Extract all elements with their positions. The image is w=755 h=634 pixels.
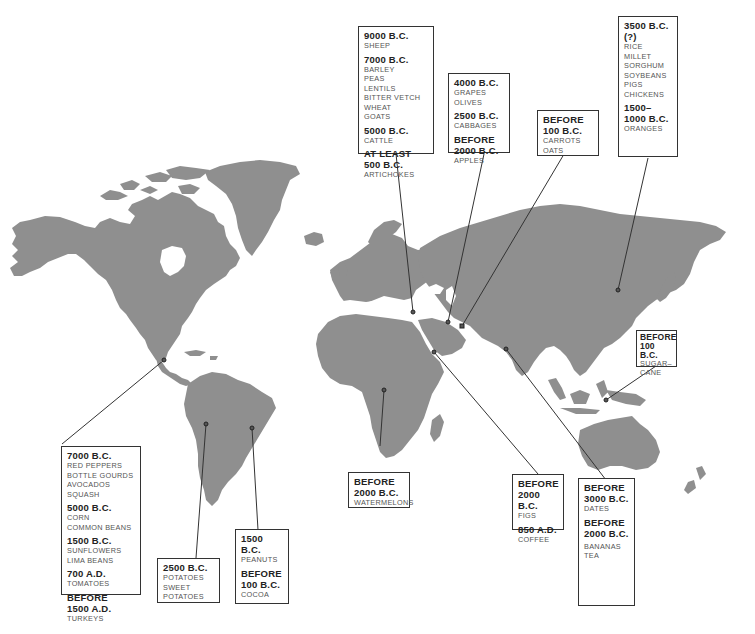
callout-mesoamerica: 7000 B.C. RED PEPPERS BOTTLE GOURDS AVOC…	[61, 446, 141, 595]
crop-label: ORANGES	[624, 124, 673, 134]
callout-china: 3500 B.C. (?) RICE MILLET SORGHUM SOYBEA…	[618, 16, 678, 157]
crop-label: PIGS	[624, 80, 673, 90]
date-label: 1500 B.C.	[241, 533, 284, 555]
crop-label: AVOCADOS	[67, 480, 136, 490]
callout-africa: BEFORE2000 B.C.WATERMELONS	[348, 472, 410, 508]
callout-caucasus: 4000 B.C. GRAPES OLIVES 2500 B.C.CABBAGE…	[448, 73, 510, 153]
location-dot	[250, 426, 254, 430]
date-label: 5000 B.C.	[364, 125, 429, 136]
callout-near-east: 9000 B.C.SHEEP 7000 B.C. BARLEY PEAS LEN…	[358, 26, 434, 154]
location-dot	[204, 422, 208, 426]
crop-label: DATES	[584, 504, 630, 514]
australia	[578, 416, 660, 470]
date-label: 9000 B.C.	[364, 30, 429, 41]
crop-label: SWEET	[163, 583, 215, 593]
crop-label: TOMATOES	[67, 579, 136, 589]
location-dot	[382, 388, 386, 392]
crop-label: GOATS	[364, 112, 429, 122]
iceland	[304, 232, 324, 246]
crop-label: LENTILS	[364, 84, 429, 94]
callout-arabia: BEFORE2000 B.C.FIGS 850 A.D.COFFEE	[512, 474, 564, 530]
crop-label: COMMON BEANS	[67, 523, 136, 533]
date-label: 700 A.D.	[67, 568, 136, 579]
crop-label: SOYBEANS	[624, 71, 673, 81]
crop-label: RED PEPPERS	[67, 461, 136, 471]
new-zealand	[684, 466, 706, 494]
date-label: BEFORE	[584, 482, 630, 493]
location-dot	[446, 320, 450, 324]
date-label: 100 B.C.	[640, 342, 673, 360]
crop-label: CARROTS	[543, 136, 594, 146]
callout-india: BEFORE3000 B.C.DATES BEFORE2000 B.C. BAN…	[578, 478, 635, 606]
crop-label: BOTTLE GOURDS	[67, 471, 136, 481]
madagascar	[430, 414, 444, 442]
date-label: 2500 B.C.	[163, 562, 215, 573]
location-dot	[504, 347, 508, 351]
crop-label: SORGHUM	[624, 61, 673, 71]
crop-label: PEANUTS	[241, 555, 284, 565]
crop-label: SUNFLOWERS	[67, 546, 136, 556]
crop-label: OLIVES	[454, 98, 505, 108]
date-label: 7000 B.C.	[67, 450, 136, 461]
date-label: BEFORE	[354, 476, 405, 487]
date-label: AT LEAST	[364, 148, 429, 159]
date-label: 7000 B.C.	[364, 54, 429, 65]
crop-label: MILLET	[624, 52, 673, 62]
location-dot	[432, 350, 436, 354]
crop-label: BITTER VETCH	[364, 93, 429, 103]
crop-label: BANANAS	[584, 542, 630, 552]
crop-label: APPLES	[454, 156, 505, 166]
callout-andes: 2500 B.C. POTATOES SWEET POTATOES	[157, 558, 220, 603]
crop-label: LIMA BEANS	[67, 556, 136, 566]
crop-label: SHEEP	[364, 41, 429, 51]
crop-label: CHICKENS	[624, 90, 673, 100]
date-label: BEFORE	[241, 568, 284, 579]
date-label: 1500–	[624, 102, 673, 113]
date-label: BEFORE	[454, 134, 505, 145]
crop-label: POTATOES	[163, 573, 215, 583]
date-label: 3000 B.C.	[584, 493, 630, 504]
leader-line-india	[506, 349, 606, 480]
date-label: 2000 B.C.	[518, 489, 559, 511]
location-dot	[411, 310, 415, 314]
date-label: BEFORE	[518, 478, 559, 489]
date-label: BEFORE	[543, 114, 594, 125]
date-label: 100 B.C.	[241, 579, 284, 590]
date-label: 2000 B.C.	[354, 487, 405, 498]
date-label: 1500 B.C.	[67, 535, 136, 546]
crop-label: WATERMELONS	[354, 498, 405, 508]
date-label: BEFORE	[584, 517, 630, 528]
date-label: 500 B.C.	[364, 159, 429, 170]
crop-label: TEA	[584, 551, 630, 561]
crop-label: FIGS	[518, 511, 559, 521]
crop-label: GRAPES	[454, 88, 505, 98]
date-label: 2000 B.C.	[454, 145, 505, 156]
crop-label: PEAS	[364, 74, 429, 84]
location-dot	[616, 288, 620, 292]
leader-line-mesoamerica	[62, 360, 164, 444]
callout-brazil: 1500 B.C.PEANUTS BEFORE100 B.C.COCOA	[235, 529, 289, 604]
crop-label: CORN	[67, 513, 136, 523]
crop-label: COFFEE	[518, 535, 559, 545]
north-america	[10, 192, 240, 362]
south-america	[184, 372, 276, 506]
crop-label: SQUASH	[67, 490, 136, 500]
location-dot	[162, 358, 166, 362]
crop-label: POTATOES	[163, 592, 215, 602]
crop-label: WHEAT	[364, 103, 429, 113]
location-dot	[460, 324, 464, 328]
date-label: 2000 B.C.	[584, 528, 630, 539]
africa	[316, 314, 444, 458]
date-label: BEFORE	[67, 592, 136, 603]
crop-label: RICE	[624, 42, 673, 52]
leader-line-brazil	[252, 428, 258, 530]
crop-label: CABBAGES	[454, 121, 505, 131]
callout-new-guinea: BEFORE100 B.C. SUGAR– CANE	[636, 330, 677, 367]
location-dot	[604, 398, 608, 402]
date-label: 850 A.D.	[518, 524, 559, 535]
date-label: 3500 B.C. (?)	[624, 20, 673, 42]
crop-label: OATS	[543, 146, 594, 156]
arctic-islands	[100, 166, 210, 200]
date-label: 5000 B.C.	[67, 502, 136, 513]
date-label: 2500 B.C.	[454, 110, 505, 121]
